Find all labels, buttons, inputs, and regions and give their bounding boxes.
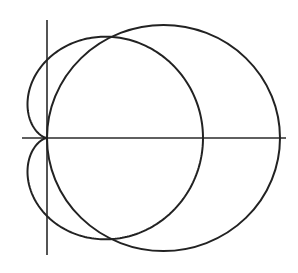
polar-curves-figure — [0, 0, 298, 273]
plot-canvas — [0, 0, 298, 273]
